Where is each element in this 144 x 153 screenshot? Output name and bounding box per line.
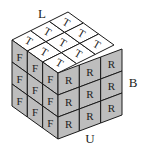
sticker-letter: R — [86, 66, 94, 78]
sticker-letter: F — [32, 84, 38, 96]
label-L: L — [38, 6, 46, 21]
sticker-letter: F — [32, 106, 38, 118]
sticker-letter: F — [32, 62, 38, 74]
label-U: U — [85, 131, 95, 146]
sticker-letter: F — [47, 95, 53, 107]
sticker-letter: R — [65, 74, 73, 86]
sticker-letter: F — [17, 95, 23, 107]
sticker-letter: F — [47, 117, 53, 129]
sticker-letter: F — [47, 73, 53, 85]
sticker-letter: F — [17, 73, 23, 85]
sticker-letter: R — [65, 96, 73, 108]
sticker-letter: R — [86, 110, 94, 122]
sticker-letter: R — [108, 58, 116, 70]
sticker-letter: F — [17, 51, 23, 63]
sticker-letter: R — [65, 118, 73, 130]
sticker-letter: R — [86, 88, 94, 100]
cube-diagram: TTTTTTTTTFFFFFFFFFRRRRRRRRRLBU — [0, 0, 144, 153]
label-B: B — [129, 75, 138, 90]
sticker-letter: R — [108, 102, 116, 114]
sticker-letter: R — [108, 80, 116, 92]
